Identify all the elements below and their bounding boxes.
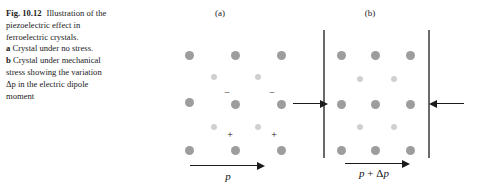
- right-stress-plate: [428, 30, 430, 158]
- panel-a-dark-atom: [185, 146, 194, 155]
- panel-a-light-atom: [211, 74, 217, 80]
- panel-a-dark-atom: [185, 51, 194, 60]
- caption-line-2: piezoelectric effect in: [6, 20, 168, 32]
- panel-b-light-atom: [391, 76, 397, 82]
- panel-a-light-atom: [255, 74, 261, 80]
- panel-b-light-atom: [357, 124, 363, 130]
- caption-item-b: b Crystal under mechanical: [6, 55, 168, 67]
- panel-a-polarization-label: p: [190, 170, 266, 182]
- panel-a-dark-atom: [231, 146, 240, 155]
- panel-b-dark-atom: [406, 100, 415, 109]
- left-stress-plate: [323, 30, 325, 158]
- caption-item-b-text-2: stress showing the variation: [6, 67, 168, 79]
- caption-marker-b: b: [6, 55, 11, 65]
- caption-item-b-text-1: Crystal under mechanical: [13, 55, 101, 65]
- polarization-arrow-b-shaft: [345, 163, 403, 164]
- caption-text-1: Illustration of the: [47, 8, 107, 18]
- figure-canvas: Fig. 10.12Illustration of the piezoelect…: [0, 0, 478, 196]
- panel-a-light-atom: [211, 124, 217, 130]
- panel-b-light-atom: [357, 76, 363, 82]
- figure-number: Fig. 10.12: [6, 8, 42, 18]
- minus-charge-sign: −: [222, 88, 232, 98]
- panel-b-dark-atom: [371, 146, 380, 155]
- caption-item-b-text-4: moment: [6, 91, 168, 103]
- panel-b-light-atom: [391, 124, 397, 130]
- stress-arrow-right-head: [429, 100, 437, 108]
- caption-line-3: ferroelectric crystals.: [6, 32, 168, 44]
- panel-b-dark-atom: [371, 100, 380, 109]
- panel-a-dark-atom: [277, 51, 286, 60]
- panel-a-dark-atom: [277, 100, 286, 109]
- panel-b-dark-atom: [337, 100, 346, 109]
- caption-marker-a: a: [6, 43, 10, 53]
- panel-b-dark-atom: [337, 146, 346, 155]
- panel-a-dark-atom: [185, 98, 194, 107]
- caption-item-a: a Crystal under no stress.: [6, 43, 168, 55]
- panel-b-polarization-label: p + Δp: [335, 167, 413, 179]
- stress-arrow-right-shaft: [436, 103, 464, 104]
- caption-item-a-text: Crystal under no stress.: [12, 43, 93, 53]
- panel-a-dark-atom: [231, 100, 240, 109]
- stress-arrow-left-head: [320, 100, 328, 108]
- plus-charge-sign: +: [225, 130, 235, 140]
- minus-charge-sign: −: [267, 88, 277, 98]
- panel-a-dark-atom: [277, 146, 286, 155]
- panel-b-dark-atom: [337, 51, 346, 60]
- panel-b-label: (b): [350, 8, 390, 18]
- panel-a-light-atom: [255, 124, 261, 130]
- caption-line-1: Fig. 10.12Illustration of the: [6, 8, 168, 20]
- stress-arrow-left-shaft: [293, 103, 321, 104]
- panel-b-dark-atom: [406, 51, 415, 60]
- panel-b-dark-atom: [406, 146, 415, 155]
- plus-charge-sign: +: [269, 130, 279, 140]
- polarization-arrow-a-head: [257, 162, 265, 170]
- panel-a-label: (a): [200, 8, 240, 18]
- panel-b-dark-atom: [371, 51, 380, 60]
- panel-a-dark-atom: [231, 51, 240, 60]
- caption-item-b-text-3: Δp in the electric dipole: [6, 79, 168, 91]
- polarization-arrow-a-shaft: [190, 165, 258, 166]
- figure-caption: Fig. 10.12Illustration of the piezoelect…: [6, 8, 168, 102]
